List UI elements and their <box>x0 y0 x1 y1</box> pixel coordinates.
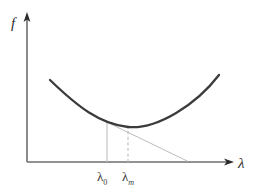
tick-label-lambda-0-subscript: 0 <box>103 178 107 187</box>
tick-label-lambda-m: λm <box>122 169 134 187</box>
y-axis-label: f <box>11 15 17 31</box>
objective-curve <box>50 75 219 127</box>
tick-label-lambda-m-subscript: m <box>128 178 134 187</box>
tick-label-lambda-0: λ0 <box>97 169 107 187</box>
x-axis-label: λ <box>237 155 245 171</box>
tangent-line <box>106 122 189 162</box>
figure-container: f λ λ0 λm <box>0 0 262 194</box>
math-figure: f λ λ0 λm <box>0 0 262 194</box>
